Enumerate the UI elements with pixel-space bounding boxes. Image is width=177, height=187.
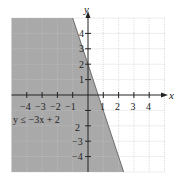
x-tick-label: −4 xyxy=(20,101,31,112)
y-tick-label: 1 xyxy=(79,74,84,85)
y-tick-label: 2 xyxy=(75,122,80,133)
y-tick-label: 2 xyxy=(79,59,84,70)
y-tick-label: −4 xyxy=(72,151,83,162)
x-tick-label: 4 xyxy=(146,101,151,112)
y-axis-label: y xyxy=(83,3,89,15)
x-tick-label: −3 xyxy=(35,101,46,112)
y-tick-label: 4 xyxy=(79,28,84,39)
y-tick-label: −3 xyxy=(72,136,83,147)
inequality-graph: y x −4 −3 −2 −1 1 2 3 4 4 3 2 1 2 −3 −4 … xyxy=(0,0,177,187)
inequality-label: y ≤ −3x + 2 xyxy=(13,114,60,125)
x-tick-label: 2 xyxy=(115,101,120,112)
x-tick-label: −1 xyxy=(65,101,76,112)
x-tick-label: 3 xyxy=(131,101,136,112)
x-tick-label: −2 xyxy=(50,101,61,112)
x-axis-label: x xyxy=(168,89,174,101)
y-tick-label: 3 xyxy=(79,43,84,54)
x-tick-label: 1 xyxy=(100,101,105,112)
